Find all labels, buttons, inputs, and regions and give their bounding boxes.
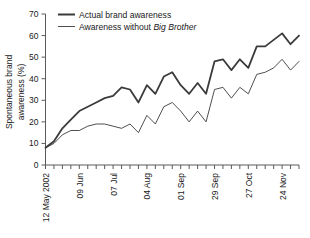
x-tick-label: 27 Oct (244, 172, 254, 198)
legend-label-awareness-without-big-brother: Awareness without Big Brother (79, 22, 198, 32)
legend-label-italic-text: Big Brother (153, 22, 197, 32)
series-lines (46, 33, 300, 147)
y-tick-label: 20 (29, 117, 39, 127)
line-chart: 010203040506070 12 May 200209 Jun07 Jul0… (0, 0, 310, 238)
y-axis-title: Spontaneous brand awareness (%) (4, 55, 26, 129)
y-axis: 010203040506070 (29, 9, 45, 170)
y-tick-label: 40 (29, 74, 39, 84)
y-tick-label: 30 (29, 95, 39, 105)
y-tick-label: 60 (29, 31, 39, 41)
y-tick-label: 10 (29, 138, 39, 148)
legend-label-plain-text: Awareness without (79, 22, 153, 32)
y-tick-label: 50 (29, 52, 39, 62)
x-axis-tick-labels: 12 May 200209 Jun07 Jul04 Aug01 Sep29 Se… (41, 172, 288, 222)
x-tick-label: 07 Jul (109, 173, 119, 196)
y-tick-label: 70 (29, 9, 39, 19)
x-tick-label: 09 Jun (75, 173, 85, 199)
x-tick-label: 24 Nov (278, 172, 288, 200)
x-tick-label: 01 Sep (176, 173, 186, 200)
y-axis-ticks (42, 14, 46, 165)
y-axis-tick-labels: 010203040506070 (29, 9, 39, 170)
series-line-actual-brand-awareness (46, 33, 300, 147)
x-axis-ticks (46, 165, 300, 169)
x-axis: 12 May 200209 Jun07 Jul04 Aug01 Sep29 Se… (41, 165, 299, 222)
y-axis-title-line-2: awareness (%) (16, 63, 26, 120)
chart-container: 010203040506070 12 May 200209 Jun07 Jul0… (0, 0, 310, 238)
x-tick-label: 04 Aug (142, 173, 152, 200)
y-axis-title-line-1: Spontaneous brand (4, 55, 14, 129)
x-tick-label: 12 May 2002 (41, 173, 51, 222)
x-tick-label: 29 Sep (210, 173, 220, 200)
legend-label-actual-brand-awareness: Actual brand awareness (79, 10, 171, 20)
chart-legend: Actual brand awareness Awareness without… (58, 10, 198, 32)
y-tick-label: 0 (34, 160, 39, 170)
